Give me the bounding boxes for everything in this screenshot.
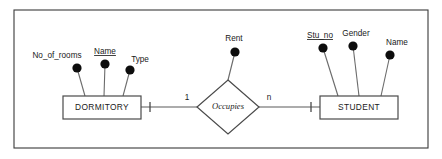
attribute-label-occupies-rent: Rent bbox=[225, 34, 243, 43]
er-diagram-svg: DORMITORYNo_of_roomsNameTypeSTUDENTStu_n… bbox=[0, 0, 442, 159]
attribute-dot-student-stu_no[interactable] bbox=[318, 43, 327, 52]
cardinality-label-left-occupies: 1 bbox=[185, 93, 190, 102]
er-diagram-canvas: DORMITORYNo_of_roomsNameTypeSTUDENTStu_n… bbox=[0, 0, 442, 159]
relationship-label-occupies: Occupies bbox=[212, 101, 245, 111]
attribute-dot-student-name[interactable] bbox=[385, 50, 394, 59]
attribute-dot-dormitory-no_of_rooms[interactable] bbox=[72, 63, 81, 72]
attribute-label-dormitory-type: Type bbox=[131, 55, 149, 64]
attribute-dot-dormitory-name[interactable] bbox=[100, 59, 109, 68]
attribute-dot-occupies-rent[interactable] bbox=[230, 47, 239, 56]
attribute-label-student-gender: Gender bbox=[342, 29, 370, 38]
attribute-label-student-name: Name bbox=[386, 38, 408, 47]
attribute-label-student-stu_no: Stu_no bbox=[307, 31, 333, 40]
attribute-dot-dormitory-type[interactable] bbox=[125, 65, 134, 74]
cardinality-label-right-occupies: n bbox=[267, 93, 272, 102]
entity-label-student: STUDENT bbox=[338, 102, 380, 112]
attribute-label-dormitory-no_of_rooms: No_of_rooms bbox=[32, 51, 81, 60]
entity-label-dormitory: DORMITORY bbox=[75, 102, 129, 112]
attribute-label-dormitory-name: Name bbox=[94, 47, 116, 56]
attribute-dot-student-gender[interactable] bbox=[348, 41, 357, 50]
